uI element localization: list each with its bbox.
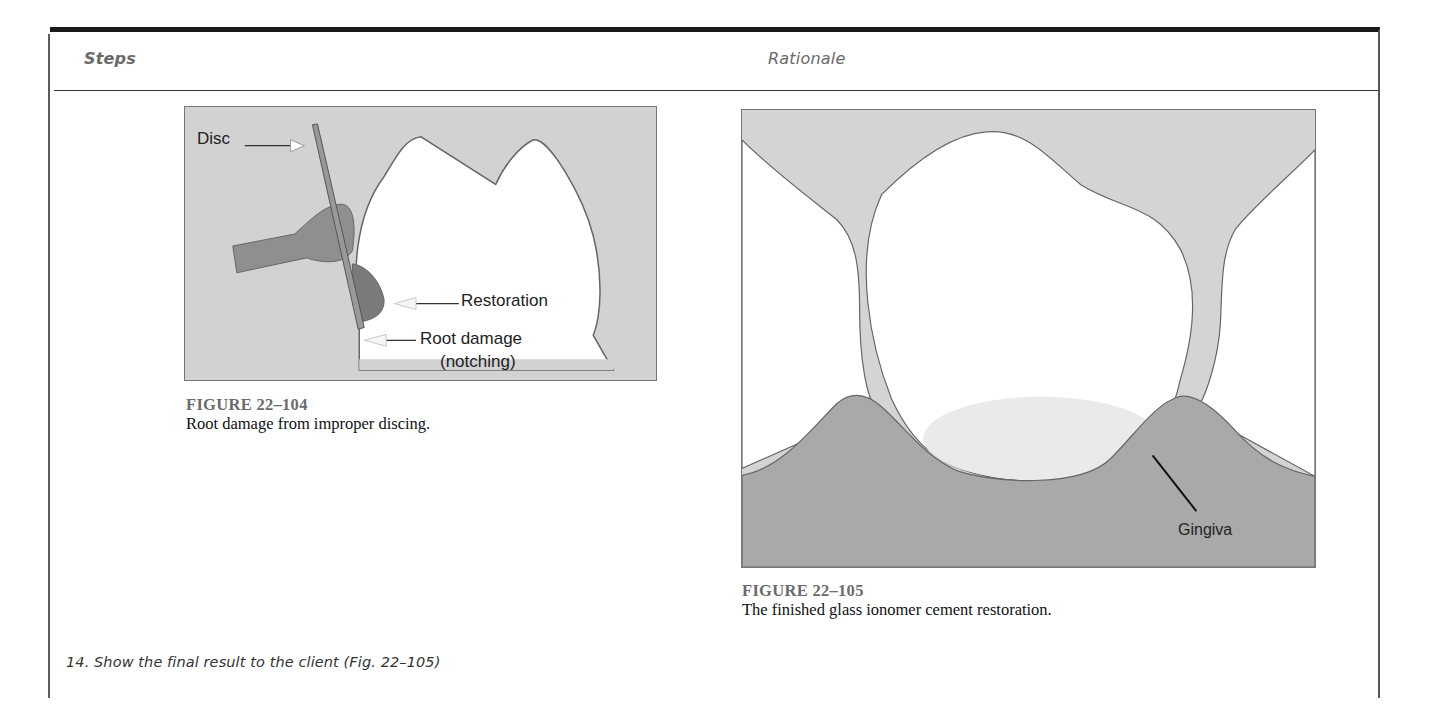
notching-label: (notching)	[440, 352, 516, 372]
disc-label: Disc	[197, 129, 230, 149]
steps-column-title: Steps	[84, 49, 136, 68]
restoration-diagram	[742, 110, 1315, 567]
step-14-text: 14. Show the final result to the client …	[66, 654, 440, 670]
figure-22-104-illustration: Disc Restoration Root damage (notching)	[184, 106, 657, 381]
figure-22-105-illustration: Gingiva	[741, 109, 1316, 568]
figure-22-104-caption: FIGURE 22–104 Root damage from improper …	[186, 395, 430, 433]
figure-caption-text: The finished glass ionomer cement restor…	[742, 600, 1052, 619]
figure-caption-text: Root damage from improper discing.	[186, 414, 430, 433]
figure-number: FIGURE 22–104	[186, 395, 430, 414]
restoration-label: Restoration	[461, 291, 548, 311]
gingiva-label: Gingiva	[1178, 521, 1232, 539]
root-damage-label: Root damage	[420, 329, 522, 349]
figure-22-105-caption: FIGURE 22–105 The finished glass ionomer…	[742, 581, 1052, 619]
table-header-row: Steps Rationale	[54, 32, 1378, 91]
rationale-column-title: Rationale	[768, 49, 845, 68]
figure-number: FIGURE 22–105	[742, 581, 1052, 600]
